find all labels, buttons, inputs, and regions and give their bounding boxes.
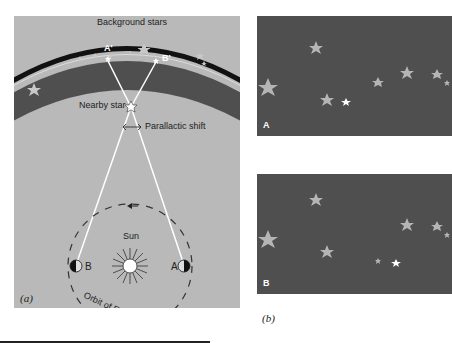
sky-view-from-a: A (257, 16, 452, 136)
panel-b-caption: (b) (262, 313, 275, 324)
view-b-label: B (263, 278, 270, 288)
star-field-a (257, 16, 452, 136)
nearby-star-a (341, 98, 351, 106)
sky-view-from-b: B (257, 174, 452, 294)
panel-a-caption: (a) (20, 293, 33, 304)
parallax-geometry-drawing (14, 16, 240, 308)
earth-b-label: B (85, 262, 92, 272)
nearby-star-label: Nearby star (79, 101, 126, 110)
view-a-label: A (263, 120, 270, 130)
background-stars-label: Background stars (97, 18, 167, 27)
earth-position-a-icon (178, 260, 190, 272)
b-prime-label: B' (162, 54, 171, 63)
earth-position-b-icon (70, 260, 82, 272)
star-field-b (257, 174, 452, 294)
earth-a-label: A (171, 262, 178, 272)
nearby-star-b (391, 259, 401, 267)
nearby-star-icon (125, 101, 137, 112)
parallactic-shift-label: Parallactic shift (145, 122, 206, 131)
a-prime-label: A' (104, 44, 113, 53)
sun-icon (112, 248, 148, 284)
sight-line-from-b (76, 107, 131, 265)
parallax-diagram-panel: Background stars A' B' Nearby star Paral… (14, 16, 240, 308)
sun-label: Sun (123, 232, 139, 241)
